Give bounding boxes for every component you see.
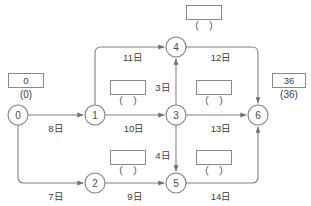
latest-time-label-node-1[interactable]: （ ） xyxy=(110,96,146,108)
node-0[interactable]: 0 xyxy=(8,105,28,125)
latest-time-label-node-4[interactable]: （ ） xyxy=(186,21,222,33)
node-0-label: 0 xyxy=(15,110,21,121)
edge-label-0-1: 8日 xyxy=(48,123,63,134)
earliest-time-box-node-0[interactable]: 0 xyxy=(8,73,44,88)
edge-label-3-5: 4日 xyxy=(155,150,170,161)
edge-label-4-6: 12日 xyxy=(211,52,232,63)
node-3[interactable]: 3 xyxy=(166,105,186,125)
earliest-time-box-node-4[interactable] xyxy=(186,5,222,20)
earliest-time-box-node-2[interactable] xyxy=(110,150,146,165)
latest-time-label-node-6: (36) xyxy=(270,89,308,101)
node-6-label: 6 xyxy=(255,110,261,121)
node-1[interactable]: 1 xyxy=(85,105,105,125)
node-5[interactable]: 5 xyxy=(166,173,186,193)
edge-label-3-4: 3日 xyxy=(155,82,170,93)
earliest-time-box-node-6[interactable]: 36 xyxy=(272,73,306,88)
node-4-label: 4 xyxy=(173,42,179,53)
node-4[interactable]: 4 xyxy=(166,37,186,57)
edge-label-2-5: 9日 xyxy=(127,191,142,202)
edge-label-group: 8日 7日 11日 10日 9日 3日 4日 12日 13日 14日 xyxy=(48,52,231,202)
network-graph-canvas: 8日 7日 11日 10日 9日 3日 4日 12日 13日 14日 0 1 2 xyxy=(0,0,311,206)
node-3-label: 3 xyxy=(173,110,179,121)
edge-label-1-3: 10日 xyxy=(124,123,145,134)
node-2-label: 2 xyxy=(92,178,98,189)
edge-label-0-2: 7日 xyxy=(48,191,63,202)
latest-time-label-node-3[interactable]: （ ） xyxy=(196,96,232,108)
earliest-time-box-node-1[interactable] xyxy=(110,80,146,95)
earliest-time-box-node-5[interactable] xyxy=(196,150,232,165)
latest-time-label-node-0: (0) xyxy=(8,89,44,101)
node-2[interactable]: 2 xyxy=(85,173,105,193)
network-diagram: 8日 7日 11日 10日 9日 3日 4日 12日 13日 14日 0 1 2 xyxy=(0,0,311,206)
latest-time-label-node-5[interactable]: （ ） xyxy=(196,166,232,178)
node-6[interactable]: 6 xyxy=(248,105,268,125)
node-5-label: 5 xyxy=(173,178,179,189)
earliest-time-box-node-3[interactable] xyxy=(196,80,232,95)
edge-label-5-6: 14日 xyxy=(211,191,232,202)
node-1-label: 1 xyxy=(92,110,98,121)
latest-time-label-node-2[interactable]: （ ） xyxy=(110,166,146,178)
edge-0-to-2 xyxy=(18,125,84,183)
edge-label-3-6: 13日 xyxy=(211,123,232,134)
edge-label-1-4: 11日 xyxy=(123,52,143,63)
